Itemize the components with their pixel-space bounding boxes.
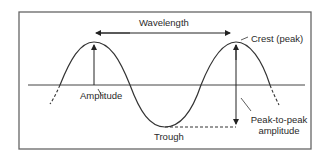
peak-to-peak-label: Peak-to-peak amplitude [247, 114, 311, 136]
wavelength-label: Wavelength [139, 17, 189, 28]
peak-to-peak-leader [241, 98, 251, 111]
crest-leader [241, 37, 248, 40]
wave-extension-left [50, 85, 60, 104]
amplitude-label: Amplitude [80, 90, 122, 101]
peak-to-peak-label-line2: amplitude [247, 125, 311, 136]
crest-label: Crest (peak) [251, 33, 303, 44]
trough-label: Trough [154, 131, 184, 142]
wave-extension-right [270, 85, 279, 105]
peak-to-peak-label-line1: Peak-to-peak [247, 114, 311, 125]
